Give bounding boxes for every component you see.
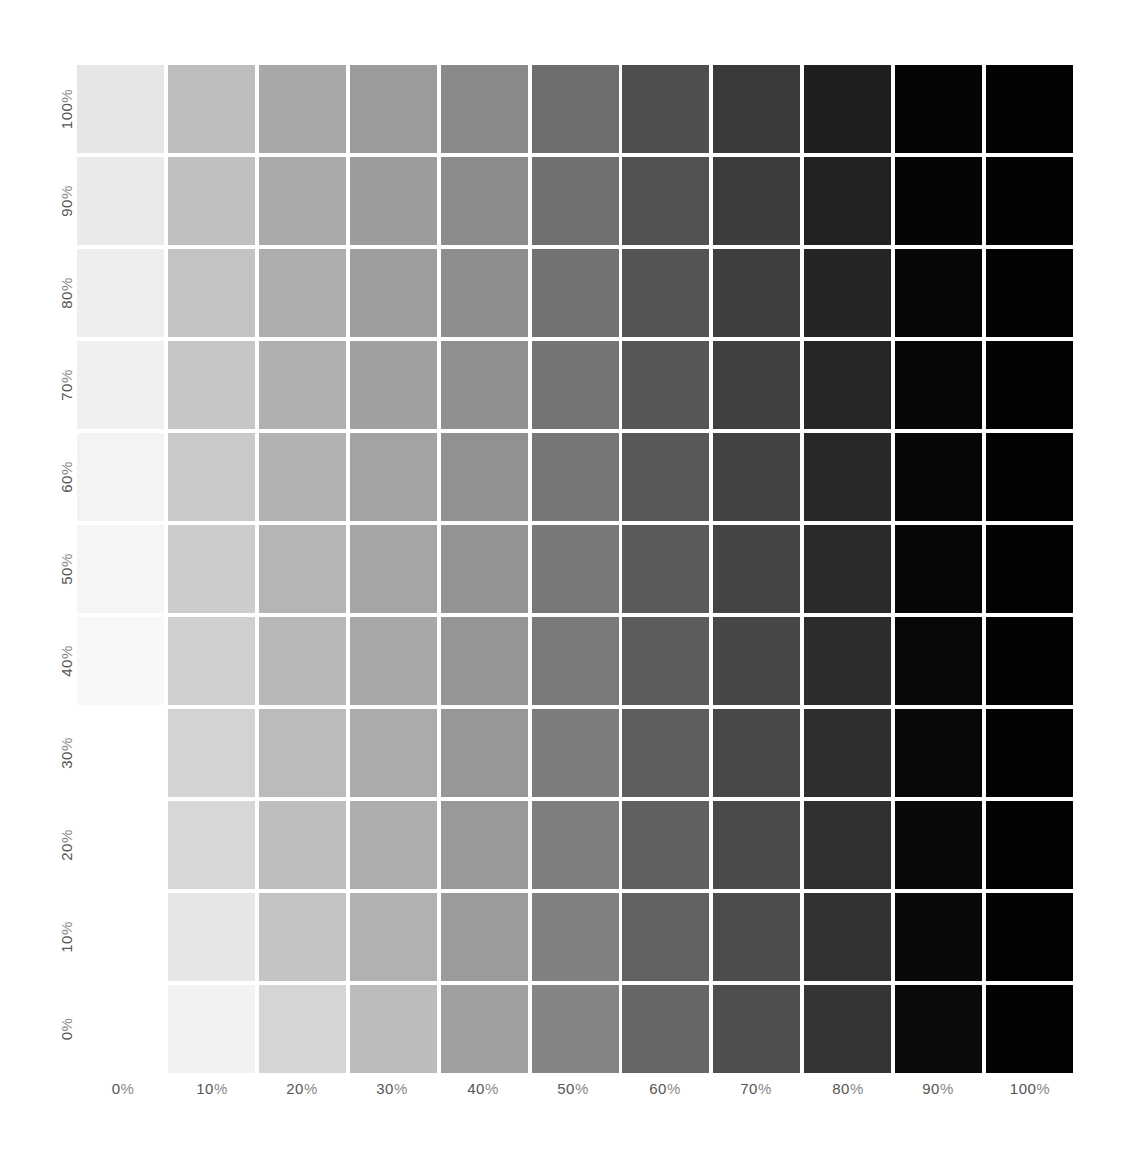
tint-cell [259,65,346,153]
tint-cell [622,341,709,429]
tint-cell [441,341,528,429]
x-axis-label-percent: % [121,1080,135,1097]
tint-cell [895,617,982,705]
tint-cell [532,433,619,521]
x-axis-label-number: 60 [649,1080,667,1097]
x-axis-label: 60% [620,1080,710,1097]
x-axis-label-number: 90 [922,1080,940,1097]
tint-cell [804,985,891,1073]
tint-cell [441,65,528,153]
y-axis-label-number: 10 [58,935,75,953]
tint-cell [259,893,346,981]
tint-cell [350,341,437,429]
tint-cell [441,525,528,613]
y-axis-label-number: 40 [58,659,75,677]
y-axis-label-number: 70 [58,383,75,401]
tint-cell [168,617,255,705]
tint-cell [622,249,709,337]
tint-cell [168,893,255,981]
tint-cell [350,433,437,521]
tint-cell [713,157,800,245]
y-axis-label: 20% [57,820,77,870]
tint-cell [77,65,164,153]
tint-cell [895,157,982,245]
tint-cell [350,249,437,337]
tint-cell [713,985,800,1073]
tint-cell [441,709,528,797]
tint-cell [622,709,709,797]
y-axis-label: 60% [57,452,77,502]
tint-cell [895,525,982,613]
y-axis-label: 70% [57,360,77,410]
tint-cell [77,893,164,981]
tint-cell [986,617,1073,705]
tint-cell [441,617,528,705]
x-axis-label: 30% [347,1080,437,1097]
x-axis-label-number: 20 [286,1080,304,1097]
tint-cell [350,617,437,705]
tint-cell [77,709,164,797]
x-axis-label: 90% [893,1080,983,1097]
x-axis-label-number: 100 [1010,1080,1037,1097]
x-axis-label-number: 70 [740,1080,758,1097]
x-axis-label-percent: % [575,1080,589,1097]
tint-cell [532,801,619,889]
y-axis-label: 100% [57,84,77,134]
x-axis-label-number: 10 [196,1080,214,1097]
tint-cell [168,341,255,429]
tint-grid [77,65,1073,1076]
tint-cell [259,341,346,429]
tint-cell [441,433,528,521]
tint-cell [350,801,437,889]
y-axis-label-number: 100 [58,103,75,130]
tint-cell [350,525,437,613]
tint-cell [77,341,164,429]
x-axis-label-number: 0 [112,1080,121,1097]
tint-cell [350,157,437,245]
x-axis-label-number: 80 [832,1080,850,1097]
tint-cell [622,525,709,613]
y-axis-label-percent: % [58,645,75,659]
tint-cell [532,709,619,797]
x-axis-label-number: 30 [376,1080,394,1097]
y-axis-label-number: 30 [58,751,75,769]
y-axis-label-percent: % [58,461,75,475]
x-axis-label-percent: % [304,1080,318,1097]
tint-cell [713,525,800,613]
y-axis-label-percent: % [58,737,75,751]
tint-cell [804,617,891,705]
tint-cell [350,893,437,981]
tint-cell [441,893,528,981]
y-axis-label-number: 20 [58,843,75,861]
tint-cell [895,985,982,1073]
tint-cell [622,801,709,889]
x-axis-label-percent: % [1036,1080,1050,1097]
y-axis-label-percent: % [58,277,75,291]
tint-cell [259,433,346,521]
x-axis-label-number: 50 [557,1080,575,1097]
tint-cell [532,249,619,337]
tint-cell [532,525,619,613]
tint-cell [532,341,619,429]
tint-cell [77,433,164,521]
tint-cell [259,709,346,797]
y-axis-label-number: 80 [58,291,75,309]
tint-cell [622,617,709,705]
tint-cell [986,985,1073,1073]
tint-cell [168,433,255,521]
tint-cell [441,249,528,337]
tint-cell [532,893,619,981]
tint-cell [77,985,164,1073]
tint-cell [804,801,891,889]
tint-cell [713,893,800,981]
tint-cell [713,709,800,797]
tint-cell [77,157,164,245]
tint-cell [77,525,164,613]
tint-cell [441,985,528,1073]
y-axis-label-percent: % [58,829,75,843]
tint-cell [532,985,619,1073]
tint-cell [77,617,164,705]
tint-cell [895,801,982,889]
tint-cell [168,65,255,153]
tint-cell [77,249,164,337]
